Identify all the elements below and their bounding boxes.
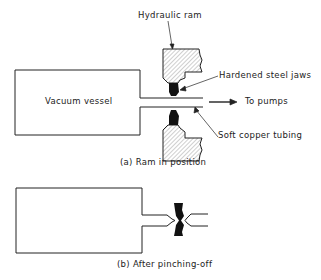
pinch-off-diagram [0, 0, 321, 280]
caption-b: (b) After pinching-off [117, 259, 212, 269]
label-vacuum-vessel: Vacuum vessel [45, 96, 112, 106]
hydraulic-ram-lower [163, 110, 202, 161]
label-soft-copper-tubing: Soft copper tubing [218, 130, 302, 140]
caption-a: (a) Ram in position [120, 157, 206, 167]
pinched-seal [174, 203, 184, 236]
label-hardened-steel-jaws: Hardened steel jaws [219, 70, 311, 80]
label-hydraulic-ram: Hydraulic ram [138, 10, 202, 20]
label-to-pumps: To pumps [245, 96, 288, 106]
